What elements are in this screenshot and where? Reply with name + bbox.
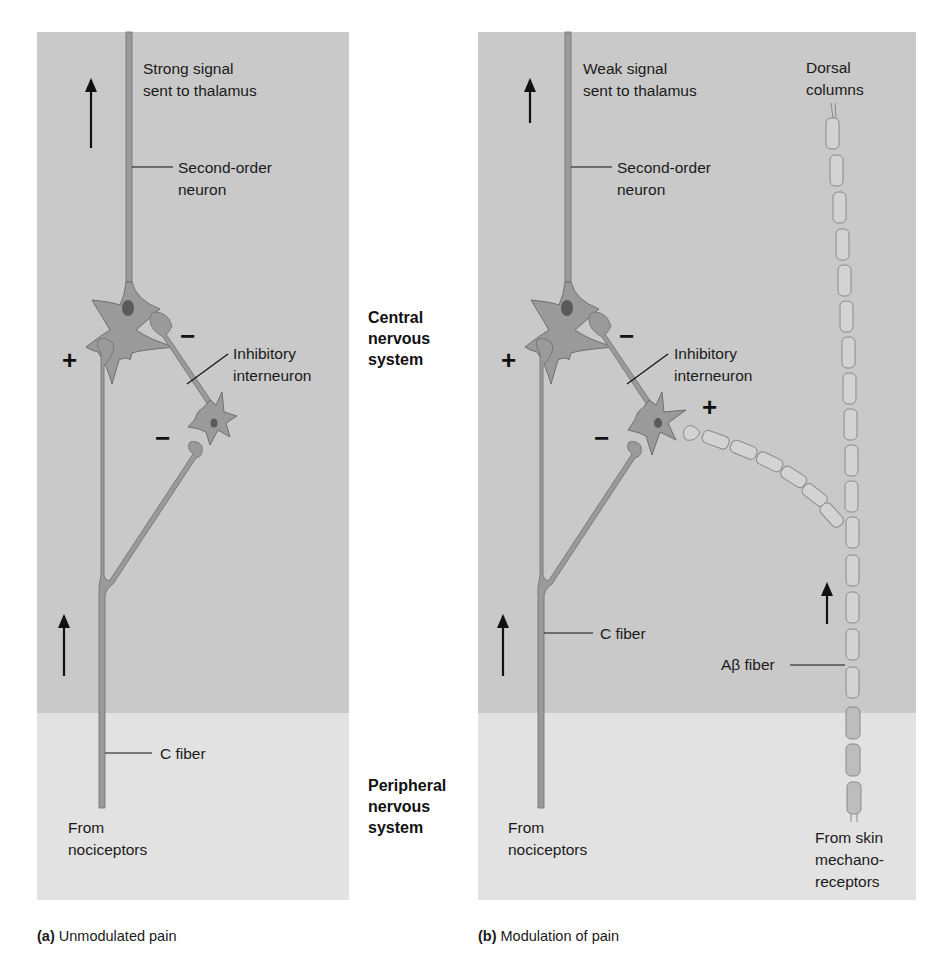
c-fiber-label: C fiber [160,745,206,762]
signal-label: Strong signal [143,60,233,77]
pns-label: nervous [368,798,430,815]
inhibitory-label: interneuron [233,367,311,384]
source-label: From [508,819,544,836]
pain-modulation-diagram: Strong signal sent to thalamus Second-or… [0,0,944,971]
inhibitory-sign: − [619,321,634,351]
panel-b: Weak signal sent to thalamus Dorsal colu… [478,32,916,900]
caption-b-text: Modulation of pain [497,928,620,944]
second-order-axon [565,32,571,282]
nucleus [561,300,573,316]
source-label: nociceptors [508,841,588,858]
abeta-fiber-label: Aβ fiber [721,656,775,673]
signal-label: sent to thalamus [583,82,697,99]
excitatory-sign: + [702,392,717,422]
mechanoreceptor-label: From skin [815,829,883,846]
source-label: nociceptors [68,841,148,858]
inhibitory-sign: − [155,423,170,453]
excitatory-sign: + [62,345,77,375]
cns-label: Central [368,309,423,326]
region-labels: Central nervous system Peripheral nervou… [368,309,446,836]
second-order-label: Second-order [617,159,711,176]
inhibitory-label: Inhibitory [233,345,296,362]
pns-label: Peripheral [368,777,446,794]
caption-a: (a) Unmodulated pain [37,928,176,944]
nucleus [654,418,662,428]
excitatory-sign: + [501,345,516,375]
caption-b-letter: (b) [478,928,497,944]
second-order-label: neuron [178,181,226,198]
c-fiber-label: C fiber [600,625,646,642]
dorsal-columns-label: Dorsal [806,59,851,76]
inhibitory-sign: − [180,321,195,351]
mechanoreceptor-label: mechano- [815,851,884,868]
cns-label: nervous [368,330,430,347]
nucleus [211,419,218,428]
pns-label: system [368,819,423,836]
panel-a: Strong signal sent to thalamus Second-or… [37,32,349,900]
inhibitory-label: interneuron [674,367,752,384]
mechanoreceptor-label: receptors [815,873,880,890]
dorsal-columns-label: columns [806,81,864,98]
caption-a-letter: (a) [37,928,55,944]
second-order-axon [126,32,132,282]
inhibitory-sign: − [594,423,609,453]
caption-b: (b) Modulation of pain [478,928,619,944]
signal-label: sent to thalamus [143,82,257,99]
cns-label: system [368,351,423,368]
nucleus [122,300,134,316]
caption-a-text: Unmodulated pain [55,928,177,944]
inhibitory-label: Inhibitory [674,345,737,362]
source-label: From [68,819,104,836]
panel-a-pns-region [37,713,349,900]
signal-label: Weak signal [583,60,667,77]
second-order-label: neuron [617,181,665,198]
second-order-label: Second-order [178,159,272,176]
